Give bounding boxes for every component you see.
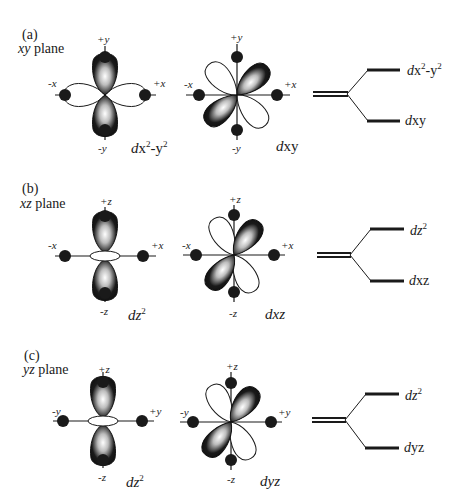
axis-label-bottom: -z	[227, 474, 235, 485]
orbital-diagram-canvas	[0, 0, 460, 504]
plane-variable: xz	[20, 196, 32, 211]
axis-label-bottom: -y	[232, 143, 241, 154]
plane-word: plane	[38, 362, 68, 377]
axis-label-left: -x	[184, 79, 193, 90]
axis-label-left: -x	[48, 78, 57, 89]
axis-label-bottom: -y	[98, 143, 107, 154]
panel-b-plane: xz plane	[20, 197, 66, 211]
orbital-name-dxy: dxy	[276, 139, 299, 154]
axis-label-right: +x	[153, 78, 165, 89]
orbital-name-dx2-y2: dx2-y2	[131, 140, 168, 156]
axis-label-top: +y	[97, 34, 109, 45]
level-lower-dxz: dxz	[409, 274, 429, 288]
level-upper-dz2: dz2	[410, 222, 427, 238]
panel-a-plane: xy plane	[18, 42, 64, 56]
energy-splitting-a	[313, 70, 400, 121]
level-upper-dx2-y2: dx2-y2	[407, 62, 442, 78]
level-lower-dxy: dxy	[405, 114, 426, 128]
axis-label-top: +y	[230, 32, 242, 43]
energy-splitting-b	[317, 229, 404, 281]
axis-label-top: +z	[229, 194, 241, 205]
axis-label-left: -x	[182, 240, 191, 251]
level-upper-dz2: dz2	[405, 387, 422, 403]
axis-label-bottom: -z	[100, 306, 108, 317]
axis-label-right: +y	[149, 406, 161, 417]
axis-label-left: -y	[180, 407, 189, 418]
axis-label-top: +z	[98, 364, 110, 375]
panel-c-label: (c)	[24, 349, 40, 363]
orbital-name-dz2: dz2	[126, 474, 144, 490]
orbital-dxy	[186, 44, 290, 140]
panel-b-label: (b)	[22, 182, 38, 196]
plane-word: plane	[34, 41, 64, 56]
axis-label-right: +x	[284, 79, 296, 90]
plane-variable: xy	[18, 41, 30, 56]
axis-label-top: +z	[100, 196, 112, 207]
axis-label-left: -y	[52, 406, 61, 417]
axis-label-bottom: -z	[98, 472, 106, 483]
orbital-name-dxz: dxz	[265, 307, 285, 322]
axis-label-left: -x	[48, 240, 57, 251]
plane-variable: yz	[23, 362, 35, 377]
orbital-dxz	[183, 205, 285, 302]
axis-label-right: +x	[281, 240, 293, 251]
orbital-dyz	[180, 372, 282, 470]
level-lower-dyz: dyz	[404, 441, 424, 455]
panel-c-plane: yz plane	[23, 363, 69, 377]
orbital-name-dyz: dyz	[260, 474, 280, 489]
orbital-dx2-y2-xy	[55, 46, 156, 140]
orbital-dz2-yz	[53, 372, 154, 468]
plane-word: plane	[35, 196, 65, 211]
panel-a-label: (a)	[22, 28, 38, 42]
energy-splitting-c	[312, 394, 399, 448]
axis-label-right: +y	[278, 407, 290, 418]
orbital-dz2-xz	[55, 207, 156, 302]
axis-label-top: +z	[226, 361, 238, 372]
axis-label-right: +x	[151, 240, 163, 251]
orbital-name-dz2: dz2	[128, 307, 146, 323]
axis-label-bottom: -z	[229, 308, 237, 319]
